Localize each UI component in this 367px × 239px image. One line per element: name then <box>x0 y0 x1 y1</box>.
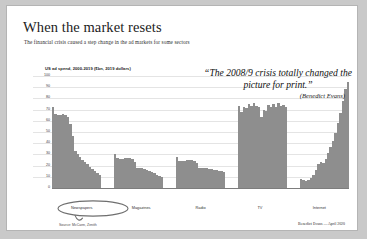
page-subtitle: The financial crisis caused a step chang… <box>24 39 190 45</box>
x-axis-label: Newspapers <box>52 202 111 214</box>
bar <box>223 172 225 188</box>
bar-group <box>52 76 101 188</box>
credit-footer: Benedict Evans — April 2020 <box>298 222 345 226</box>
bar <box>285 107 287 188</box>
x-axis-label: Magazines <box>111 202 170 214</box>
quote-annotation: “The 2008/9 crisis totally changed the p… <box>203 67 353 92</box>
x-axis-label: TV <box>230 202 289 214</box>
source-note: Source: McCann, Zenith <box>59 223 97 227</box>
x-axis-label: Radio <box>171 202 230 214</box>
page-title: When the market resets <box>23 19 162 36</box>
bar <box>161 177 163 188</box>
y-axis-tick: 0 <box>33 186 50 190</box>
x-axis-label: Internet <box>290 202 349 214</box>
bar <box>99 175 101 188</box>
quote-attribution: (Benedict Evans) <box>203 92 353 99</box>
presentation-slide: When the market resets The financial cri… <box>6 5 358 231</box>
x-axis-labels: NewspapersMagazinesRadioTVInternet <box>52 202 349 214</box>
chart-title: US ad spend, 2000-2019 ($bn, 2019 dollar… <box>45 66 131 71</box>
bar-group <box>114 76 163 188</box>
